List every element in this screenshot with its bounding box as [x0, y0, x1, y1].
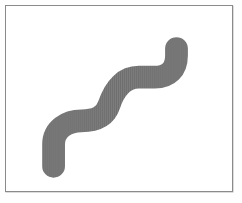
- serpentine-stroke-path: [54, 49, 177, 167]
- figure-root: [0, 0, 242, 203]
- serpentine-curve-svg: [6, 6, 232, 191]
- drawing-canvas: [6, 6, 232, 191]
- bordered-panel: [5, 5, 233, 192]
